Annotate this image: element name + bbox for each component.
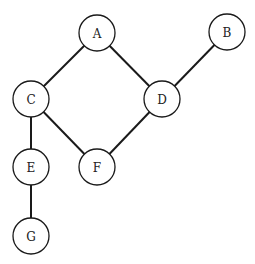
node-b: B (209, 14, 245, 50)
node-c: C (13, 81, 49, 117)
node-d: D (144, 81, 180, 117)
node-label: E (27, 161, 36, 175)
graph-diagram: ABCDEFG (0, 0, 255, 264)
node-label: F (93, 161, 101, 175)
node-label: G (26, 230, 36, 244)
node-label: A (92, 27, 102, 41)
node-a: A (79, 15, 115, 51)
node-e: E (13, 149, 49, 185)
node-label: D (157, 93, 167, 107)
node-f: F (79, 149, 115, 185)
node-label: B (223, 26, 232, 40)
edges-layer (31, 32, 227, 236)
node-label: C (26, 93, 35, 107)
node-g: G (13, 218, 49, 254)
